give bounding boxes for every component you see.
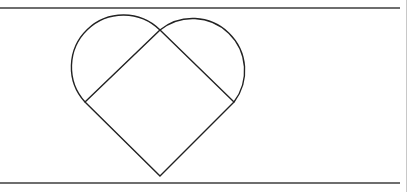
left-lobe-arc bbox=[71, 15, 160, 102]
right-lobe-arc bbox=[160, 18, 245, 102]
rotated-square bbox=[85, 30, 234, 176]
heart-diagram bbox=[0, 0, 410, 192]
